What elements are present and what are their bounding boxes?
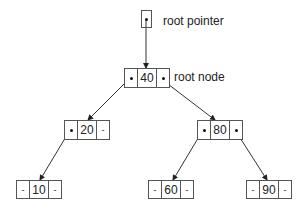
node-key: 80 [210, 121, 230, 139]
left-pointer-null: - [247, 181, 259, 198]
tree-node-10: - 10 - [16, 180, 62, 199]
tree-node-90: - 90 - [246, 180, 292, 199]
root-pointer-label: root pointer [163, 14, 224, 28]
pointer-dot-icon [130, 77, 133, 80]
pointer-dot-icon [235, 129, 238, 132]
node-key: 60 [161, 181, 181, 198]
left-pointer-null: - [149, 181, 161, 198]
tree-node-60: - 60 - [148, 180, 194, 199]
right-pointer-null: - [49, 181, 61, 198]
node-key: 20 [77, 121, 97, 139]
tree-node-80: 80 [197, 120, 243, 140]
pointer-dot-icon [162, 77, 165, 80]
node-key: 10 [29, 181, 49, 198]
node-key: 40 [137, 69, 157, 87]
tree-node-20: 20 - [64, 120, 110, 140]
pointer-dot-icon [145, 18, 148, 21]
right-pointer-null: - [97, 121, 109, 139]
root-pointer-box [141, 10, 152, 28]
right-pointer [230, 121, 242, 139]
right-pointer-null: - [279, 181, 291, 198]
node-key: 90 [259, 181, 279, 198]
right-pointer-null: - [181, 181, 193, 198]
root-node-label: root node [174, 70, 225, 84]
pointer-dot-icon [203, 129, 206, 132]
right-pointer [157, 69, 169, 87]
pointer-dot-icon [70, 129, 73, 132]
tree-node-40: 40 [124, 68, 170, 88]
left-pointer [198, 121, 210, 139]
left-pointer-null: - [17, 181, 29, 198]
left-pointer [125, 69, 137, 87]
left-pointer [65, 121, 77, 139]
